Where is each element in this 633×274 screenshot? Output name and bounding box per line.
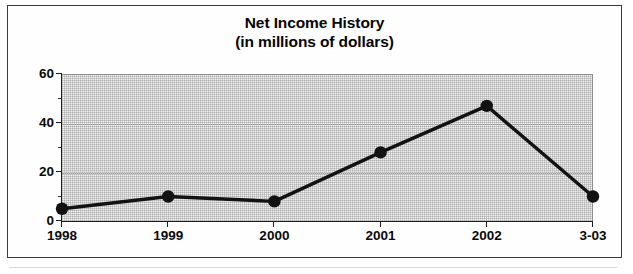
gridline-y	[62, 124, 592, 125]
chart-screenshot: Net Income History (in millions of dolla…	[0, 0, 633, 274]
x-axis	[61, 221, 593, 222]
y-axis-label: 20	[39, 164, 54, 179]
x-axis-tick	[486, 222, 487, 227]
x-axis-label: 1998	[47, 228, 77, 243]
y-axis-label: 0	[46, 213, 54, 228]
page-edge-line	[9, 267, 617, 268]
x-axis-label: 2000	[259, 228, 289, 243]
y-axis-label: 60	[39, 66, 54, 81]
x-axis-label: 2002	[472, 228, 502, 243]
chart-title-block: Net Income History (in millions of dolla…	[8, 14, 621, 51]
x-axis-label: 3-03	[579, 228, 606, 243]
y-axis: 0204060	[61, 73, 62, 222]
x-axis-label: 1999	[153, 228, 183, 243]
y-axis-label: 40	[39, 115, 54, 130]
x-axis-tick	[592, 222, 593, 227]
x-axis-tick	[61, 222, 62, 227]
y-axis-tick	[56, 171, 62, 172]
y-axis-tick	[56, 73, 62, 74]
x-axis-tick	[167, 222, 168, 227]
x-axis-tick	[273, 222, 274, 227]
x-axis-label: 2001	[366, 228, 396, 243]
gridline-y	[62, 173, 592, 174]
y-axis-minor-tick	[58, 147, 62, 148]
y-axis-tick	[56, 122, 62, 123]
y-axis-minor-tick	[58, 98, 62, 99]
plot-area	[62, 74, 593, 221]
chart-title: Net Income History	[8, 14, 621, 32]
chart-subtitle: (in millions of dollars)	[8, 32, 621, 51]
y-axis-minor-tick	[58, 196, 62, 197]
x-axis-tick	[380, 222, 381, 227]
